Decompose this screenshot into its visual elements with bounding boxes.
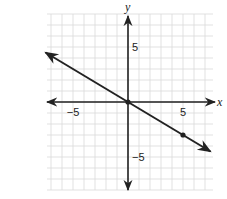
x-axis-label: x: [216, 95, 223, 109]
y-tick-label: −5: [132, 151, 145, 163]
data-point: [180, 132, 185, 137]
x-tick-label: −5: [67, 106, 80, 118]
y-tick-label: 5: [132, 41, 138, 53]
x-tick-label: 5: [180, 106, 186, 118]
y-axis-label: y: [124, 0, 131, 14]
data-point: [125, 99, 130, 104]
coordinate-plane: −555−5 x y: [0, 0, 227, 199]
